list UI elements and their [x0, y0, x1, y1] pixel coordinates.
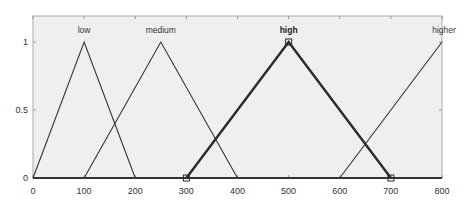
y-tick-label: 0: [23, 173, 28, 183]
mf-label-medium[interactable]: medium: [146, 25, 176, 35]
membership-function-plot: 00.51 0100200300400500600700800 lowmediu…: [0, 0, 471, 204]
y-tick-label: 1: [23, 37, 28, 47]
x-tick-label: 800: [434, 186, 449, 196]
plot-area: [33, 16, 442, 178]
mf-label-low[interactable]: low: [78, 25, 92, 35]
x-tick-label: 100: [77, 186, 92, 196]
x-tick-label: 500: [281, 186, 296, 196]
x-tick-label: 0: [30, 186, 35, 196]
x-tick-label: 600: [332, 186, 347, 196]
mf-label-higher[interactable]: higher: [432, 25, 456, 35]
y-tick-label: 0.5: [15, 105, 28, 115]
x-tick-label: 300: [179, 186, 194, 196]
x-tick-label: 200: [128, 186, 143, 196]
x-tick-label: 400: [230, 186, 245, 196]
mf-label-high[interactable]: high: [280, 25, 298, 35]
x-tick-label: 700: [383, 186, 398, 196]
